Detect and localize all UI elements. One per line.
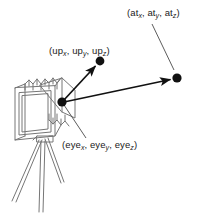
up-point-dot — [96, 57, 105, 66]
eye-label-name-y: eye — [90, 139, 106, 150]
up-label-sub-z: z — [103, 50, 107, 57]
up-label-name-y: up — [72, 45, 83, 56]
up-label-name-z: up — [92, 45, 103, 56]
at-label-sub-x: x — [138, 12, 142, 19]
eye-point-label: (eyex, eyey, eyez) — [62, 140, 137, 150]
eye-label-close: ) — [134, 139, 137, 150]
eye-label-sub-z: z — [130, 144, 134, 151]
at-point-label: (atx, aty, atz) — [127, 8, 180, 18]
camera-front-standard — [15, 78, 61, 140]
at-label-name-y: at — [147, 7, 155, 18]
eye-point-dot — [57, 97, 66, 106]
at-label-sub-y: y — [156, 12, 160, 19]
up-label-sub-x: x — [63, 50, 67, 57]
eye-label-sub-x: x — [81, 144, 85, 151]
at-label-name-z: at — [165, 7, 173, 18]
tripod-legs — [12, 136, 64, 212]
look-at-diagram: (atx, aty, atz) (upx, upy, upz) (eyex, e… — [0, 0, 201, 213]
up-label-name-x: up — [52, 45, 63, 56]
up-label-close: ) — [106, 45, 109, 56]
up-label-sub-y: y — [83, 50, 87, 57]
up-point-label: (upx, upy, upz) — [49, 46, 110, 56]
eye-label-sub-y: y — [106, 144, 110, 151]
at-leader-line — [152, 24, 174, 70]
diagram-canvas — [0, 0, 201, 213]
eye-label-name-z: eye — [115, 139, 131, 150]
at-point-dot — [172, 73, 181, 82]
eye-label-name-x: eye — [65, 139, 81, 150]
at-label-sub-z: z — [173, 12, 177, 19]
at-label-close: ) — [176, 7, 179, 18]
